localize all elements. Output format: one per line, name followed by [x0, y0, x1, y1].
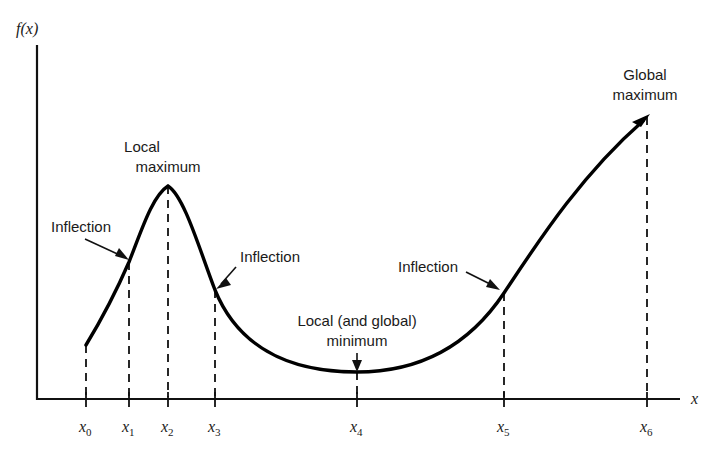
tick-label-x4: x4: [349, 418, 363, 438]
minimum-line2: minimum: [327, 332, 388, 349]
tick-label-x1: x1: [121, 418, 135, 438]
tick-label-x5: x5: [496, 418, 510, 438]
annotation-minimum: Local (and global) minimum: [297, 312, 416, 372]
x-tick-labels: x0 x1 x2 x3 x4 x5 x6: [78, 418, 653, 438]
inflection-1-label: Inflection: [51, 218, 111, 235]
annotation-global-maximum: Global maximum: [612, 66, 677, 103]
tick-label-x6: x6: [639, 418, 653, 438]
figure-page: Inflection Local maximum Inflection Loca…: [0, 0, 716, 456]
tick-label-x2: x2: [160, 418, 174, 438]
local-maximum-line2: maximum: [135, 158, 200, 175]
global-maximum-line1: Global: [623, 66, 666, 83]
inflection-3-label: Inflection: [398, 258, 458, 275]
global-maximum-line2: maximum: [612, 86, 677, 103]
x-axis-label: x: [690, 390, 698, 407]
inflection-2-label: Inflection: [240, 248, 300, 265]
tick-label-x0: x0: [78, 418, 92, 438]
tick-label-x3: x3: [207, 418, 221, 438]
y-axis-label: f(x): [16, 20, 38, 38]
local-maximum-line1: Local: [124, 138, 160, 155]
minimum-line1: Local (and global): [297, 312, 416, 329]
annotation-inflection-1: Inflection: [51, 218, 129, 260]
annotation-inflection-2: Inflection: [216, 248, 300, 289]
annotation-inflection-3: Inflection: [398, 258, 500, 290]
annotation-local-maximum: Local maximum: [124, 138, 200, 175]
function-curve-diagram: Inflection Local maximum Inflection Loca…: [0, 0, 716, 456]
